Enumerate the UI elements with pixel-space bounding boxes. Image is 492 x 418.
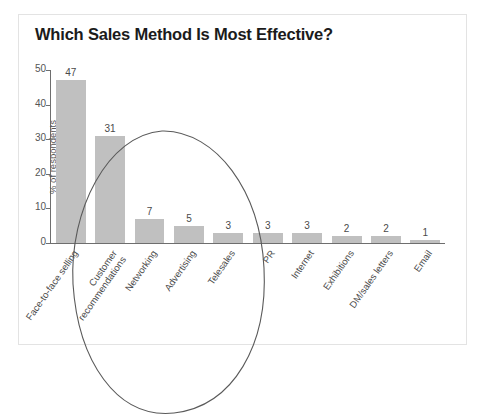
bar-value-label: 2	[383, 223, 389, 234]
bar-slot: 2	[327, 70, 366, 243]
bar: 5	[174, 226, 204, 243]
bar-value-label: 7	[147, 206, 153, 217]
bar-value-label: 5	[186, 213, 192, 224]
bar-value-label: 3	[226, 220, 232, 231]
bar: 7	[135, 219, 165, 243]
bar-value-label: 3	[304, 220, 310, 231]
y-tick-label: 0	[40, 236, 46, 247]
y-tick-label: 30	[35, 132, 46, 143]
x-axis-tick-label: Internet	[289, 248, 316, 281]
bar-series: 473175333221	[51, 70, 445, 243]
x-label-slot: Internet	[287, 246, 326, 346]
bar-slot: 3	[209, 70, 248, 243]
bar: 3	[253, 233, 283, 243]
bar-slot: 1	[406, 70, 445, 243]
bar-slot: 3	[287, 70, 326, 243]
y-tick-label: 20	[35, 167, 46, 178]
bar-slot: 3	[248, 70, 287, 243]
x-axis-tick-label: PR	[260, 248, 277, 265]
bar: 47	[56, 80, 86, 243]
bar-value-label: 47	[65, 67, 76, 78]
bar: 3	[292, 233, 322, 243]
page-title: Which Sales Method Is Most Effective?	[35, 25, 333, 44]
bar: 2	[371, 236, 401, 243]
x-axis-line	[50, 243, 445, 244]
y-tick-label: 10	[35, 201, 46, 212]
bar-slot: 5	[169, 70, 208, 243]
bar: 2	[332, 236, 362, 243]
y-tick-label: 40	[35, 98, 46, 109]
y-tick-label: 50	[35, 63, 46, 74]
bar: 31	[95, 136, 125, 243]
x-label-slot: Email	[406, 246, 445, 346]
x-axis-labels: Face-to-face sellingCustomer recommendat…	[51, 246, 445, 346]
x-label-slot: PR	[248, 246, 287, 346]
x-label-slot: Networking	[130, 246, 169, 346]
bar-value-label: 3	[265, 220, 271, 231]
bar-slot: 47	[51, 70, 90, 243]
x-label-slot: Customer recommendations	[90, 246, 129, 346]
bar-value-label: 2	[344, 223, 350, 234]
x-label-slot: Advertising	[169, 246, 208, 346]
x-axis-tick-label: Email	[412, 248, 435, 274]
x-label-slot: Telesales	[209, 246, 248, 346]
bar: 1	[410, 240, 440, 243]
x-label-slot: DM/sales letters	[366, 246, 405, 346]
plot-area: % of respondents 01020304050 47317533322…	[50, 70, 445, 243]
y-tick: 0	[50, 243, 51, 244]
bar: 3	[213, 233, 243, 243]
x-axis-tick-label: Telesales	[206, 248, 238, 287]
bar-slot: 2	[366, 70, 405, 243]
bar-value-label: 31	[105, 123, 116, 134]
bar-value-label: 1	[423, 227, 429, 238]
bar-slot: 7	[130, 70, 169, 243]
y-tick-mark	[46, 243, 51, 244]
bar-slot: 31	[90, 70, 129, 243]
